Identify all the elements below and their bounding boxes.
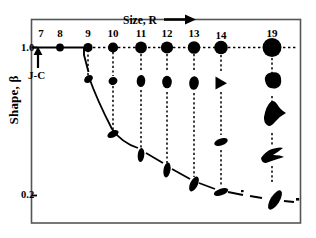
marker-r9-b1.0: [83, 43, 92, 52]
marker-r10-b1.0: [108, 42, 118, 52]
x-axis-title: Size, R: [123, 14, 157, 26]
marker-r11-b1.0: [135, 42, 147, 54]
figure-panel: Shape, β Size, R J-C 1.0 0.2 7 8 9 10 11…: [0, 0, 316, 238]
tail-speck-right: [296, 198, 299, 201]
column-label-19: 19: [262, 27, 282, 39]
column-label-12: 12: [157, 27, 177, 39]
marker-r14-b1.0: [214, 41, 228, 55]
jc-annotation-label: J-C: [28, 69, 45, 81]
column-label-9: 9: [78, 27, 98, 39]
column-label-13: 13: [184, 27, 204, 39]
marker-r13-b1.0: [188, 41, 201, 54]
column-label-10: 10: [103, 27, 123, 39]
marker-r12-b0.79: [162, 76, 172, 89]
y-axis-title: Shape, β: [6, 64, 22, 136]
marker-r12-b1.0: [161, 41, 173, 53]
column-label-11: 11: [131, 27, 151, 39]
ytick-label-0.2: 0.2: [21, 189, 34, 200]
column-label-7: 7: [31, 27, 51, 39]
column-label-8: 8: [50, 27, 70, 39]
column-label-14: 14: [211, 29, 231, 41]
marker-r19-b1.0: [263, 38, 282, 57]
tail-speck-mid: [241, 190, 244, 192]
marker-r8-b1.0: [56, 44, 64, 52]
ytick-label-1.0: 1.0: [21, 42, 34, 53]
